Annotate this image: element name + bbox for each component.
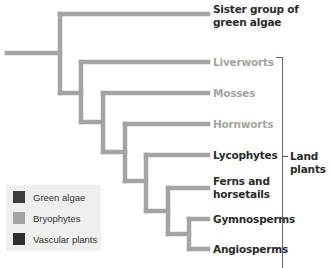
taxon-hornworts: Hornworts (213, 118, 273, 131)
taxon-sister-group-line1: Sister group of (213, 3, 299, 16)
swatch-bryophytes (13, 212, 25, 224)
taxon-mosses: Mosses (213, 87, 255, 100)
land-plants-line2: plants (290, 163, 326, 176)
legend-item-vascular-plants: Vascular plants (13, 232, 97, 246)
land-plants-label: Land plants (290, 150, 326, 175)
legend-label-bryophytes: Bryophytes (33, 213, 81, 224)
land-plants-line1: Land (290, 150, 326, 163)
legend-label-green-algae: Green algae (33, 192, 85, 203)
taxon-sister-group: Sister group of green algae (213, 3, 299, 28)
taxon-sister-group-line2: green algae (213, 16, 299, 29)
taxon-liverworts: Liverworts (213, 56, 274, 69)
legend-item-bryophytes: Bryophytes (13, 211, 81, 225)
taxon-lycophytes: Lycophytes (213, 149, 278, 162)
swatch-vascular-plants (13, 233, 25, 245)
taxon-ferns-line1: Ferns and (213, 175, 270, 188)
land-plants-bracket-tick (283, 156, 288, 157)
land-plants-bracket (276, 57, 283, 268)
swatch-green-algae (13, 191, 25, 203)
legend-item-green-algae: Green algae (13, 190, 85, 204)
taxon-ferns-horsetails: Ferns and horsetails (213, 175, 270, 200)
legend: Green algae Bryophytes Vascular plants (6, 185, 101, 251)
taxon-ferns-line2: horsetails (213, 188, 270, 201)
legend-label-vascular-plants: Vascular plants (33, 234, 97, 245)
